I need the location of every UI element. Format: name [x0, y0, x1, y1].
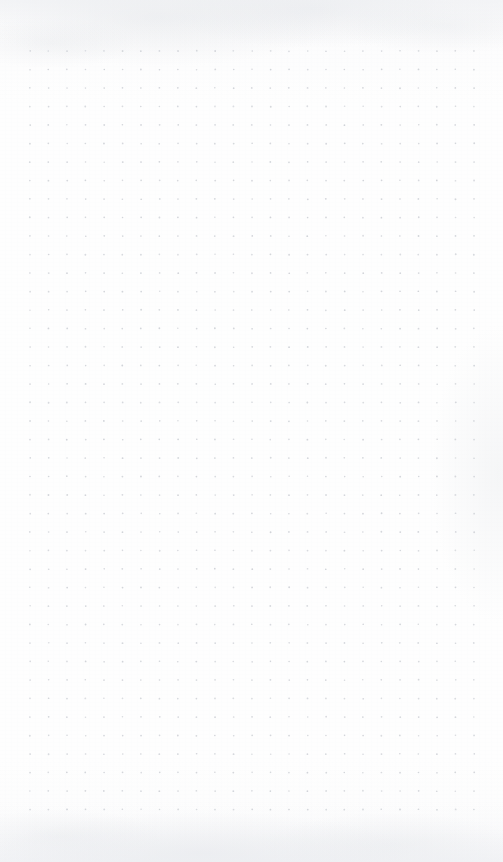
- grid-dot: [399, 809, 401, 811]
- grid-dot: [29, 809, 31, 811]
- grid-dot: [66, 808, 68, 810]
- grid-dot: [251, 808, 253, 810]
- grid-dot: [85, 809, 87, 811]
- grid-dot: [177, 809, 179, 811]
- grid-dot: [214, 809, 216, 811]
- page-content-area[interactable]: [30, 51, 475, 807]
- grid-dot: [103, 809, 105, 811]
- grid-dot: [307, 809, 309, 811]
- grid-dot: [436, 809, 438, 811]
- grid-dot: [418, 808, 420, 810]
- grid-dot: [380, 808, 382, 810]
- grid-dot: [455, 809, 457, 811]
- grid-dot: [343, 809, 345, 811]
- grid-dot: [473, 809, 475, 811]
- notebook-page: [0, 0, 503, 862]
- grid-dot: [122, 808, 124, 810]
- grid-dot: [196, 809, 198, 811]
- grid-dot: [270, 809, 272, 811]
- grid-dot: [325, 809, 327, 811]
- grid-dot: [47, 809, 49, 811]
- grid-dot: [140, 808, 142, 810]
- grid-dot: [159, 809, 161, 811]
- grid-dot: [288, 809, 290, 811]
- grid-dot: [362, 809, 364, 811]
- grid-dot: [233, 809, 235, 811]
